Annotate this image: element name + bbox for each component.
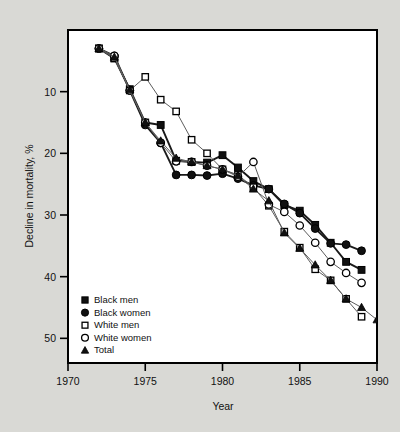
data-point-open-square: [82, 322, 88, 328]
data-point-open-square: [158, 96, 164, 102]
data-point-filled-circle: [203, 172, 211, 180]
data-point-filled-circle: [358, 247, 366, 255]
data-point-open-square: [173, 108, 179, 114]
data-point-filled-circle: [327, 239, 335, 247]
x-tick-label: 1985: [288, 375, 312, 387]
x-tick-label: 1975: [134, 375, 158, 387]
data-point-open-square: [142, 74, 148, 80]
data-point-open-circle: [296, 222, 303, 229]
legend-label: Black men: [94, 294, 138, 305]
data-point-filled-circle: [342, 241, 350, 249]
legend-label: Black women: [94, 307, 151, 318]
data-point-open-circle: [250, 158, 257, 165]
x-tick-label: 1970: [56, 375, 80, 387]
y-tick-label: 30: [44, 209, 56, 221]
data-point-open-circle: [358, 279, 365, 286]
y-tick-label: 20: [44, 147, 56, 159]
data-point-open-circle: [342, 269, 349, 276]
data-point-filled-circle: [265, 185, 273, 193]
data-point-filled-square: [157, 122, 164, 129]
data-point-filled-square: [343, 258, 350, 265]
data-point-filled-square: [358, 266, 365, 273]
legend-label: Total: [94, 344, 114, 355]
legend-label: White men: [94, 319, 139, 330]
data-point-filled-circle: [81, 309, 88, 316]
mortality-decline-line-chart: 1020304050 19701975198019851990 Black me…: [0, 0, 400, 432]
x-tick-label: 1990: [365, 375, 389, 387]
data-point-open-circle: [327, 258, 334, 265]
data-point-open-circle: [82, 334, 89, 341]
y-tick-label: 50: [44, 332, 56, 344]
y-axis-title: Decline in mortality, %: [23, 144, 35, 247]
x-tick-label: 1980: [211, 375, 235, 387]
legend-label: White women: [94, 332, 152, 343]
data-point-open-circle: [312, 239, 319, 246]
data-point-filled-square: [235, 164, 242, 171]
data-point-filled-square: [219, 152, 226, 159]
data-point-open-square: [204, 150, 210, 156]
data-point-filled-circle: [172, 171, 180, 179]
data-point-filled-circle: [311, 225, 319, 233]
data-point-filled-circle: [296, 209, 304, 217]
chart-page: 1020304050 19701975198019851990 Black me…: [0, 0, 400, 432]
x-axis-title: Year: [212, 400, 234, 412]
y-tick-label: 10: [44, 86, 56, 98]
data-point-filled-square: [82, 297, 88, 303]
data-point-open-circle: [281, 208, 288, 215]
data-point-open-square: [358, 314, 364, 320]
data-point-filled-circle: [280, 200, 288, 208]
y-tick-label: 40: [44, 271, 56, 283]
data-point-filled-circle: [188, 171, 196, 179]
data-point-open-square: [188, 137, 194, 143]
